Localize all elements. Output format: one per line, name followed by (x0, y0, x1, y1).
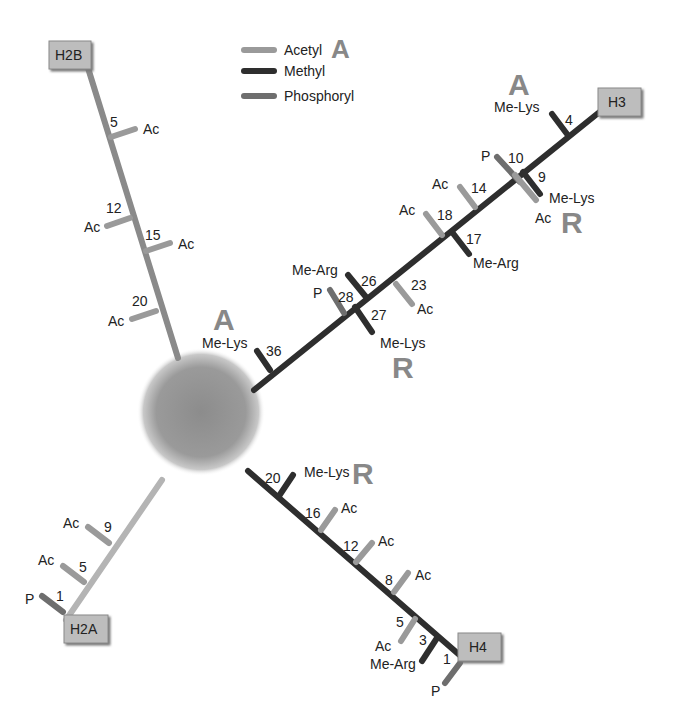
h2a-label: H2A (70, 621, 98, 637)
h3-site-10-modification: P (481, 148, 490, 164)
h2b-site-12-modification: Ac (84, 219, 100, 235)
h4-site-5-number: 5 (396, 614, 404, 630)
h3-site-23-modification: Ac (417, 301, 433, 317)
h4-site-12-modification: Ac (378, 533, 394, 549)
h3-site-10-number: 10 (508, 150, 524, 166)
h4-site-3-number: 3 (419, 632, 427, 648)
h2a-site-5-modification: Ac (38, 552, 54, 568)
legend-acetyl-label: Acetyl (284, 42, 322, 58)
h3-site-9-methyl-label: Me-Lys (549, 190, 594, 206)
legend-phosphoryl-label: Phosphoryl (284, 88, 354, 104)
h2a-tail: Ac 9 Ac 5 P 1 H2A (25, 480, 162, 643)
h2b-site-15-modification: Ac (178, 236, 194, 252)
h3-site-23-number: 23 (411, 277, 427, 293)
h4-tail: 20 Me-Lys R 16 Ac 12 Ac 8 Ac 5 Ac 3 Me-A… (248, 457, 501, 699)
h3-site-14-number: 14 (471, 180, 487, 196)
h3-site-9-acetyl-label: Ac (535, 210, 551, 226)
h3-label: H3 (608, 94, 626, 110)
h3-site-9-number: 9 (538, 169, 546, 185)
h2b-site-5-modification: Ac (143, 121, 159, 137)
h3-site-4-activation-mark: A (508, 68, 530, 101)
h4-site-16-number: 16 (305, 505, 321, 521)
h3-site-23-acetyl-mark (396, 284, 412, 304)
legend: Acetyl A Methyl Phosphoryl (244, 34, 354, 104)
h4-site-20-methyl-mark (279, 475, 293, 496)
h3-site-36-number: 36 (266, 343, 282, 359)
h4-site-16-modification: Ac (341, 500, 357, 516)
h3-site-28-number: 28 (338, 289, 354, 305)
h3-site-36-activation-mark: A (213, 303, 235, 336)
legend-methyl-label: Methyl (284, 63, 325, 79)
h2b-backbone (88, 68, 178, 358)
legend-activation-mark: A (331, 34, 350, 64)
h2b-site-15-number: 15 (145, 227, 161, 243)
h4-site-12-number: 12 (343, 538, 359, 554)
h2b-site-20-modification: Ac (108, 313, 124, 329)
h2a-backbone (66, 480, 162, 620)
h4-site-8-modification: Ac (415, 567, 431, 583)
h3-site-27-repression-mark: R (392, 351, 414, 384)
h2a-site-9-number: 9 (104, 519, 112, 535)
h2a-site-1-modification: P (25, 591, 34, 607)
h2a-site-9-modification: Ac (63, 515, 79, 531)
h4-label: H4 (469, 639, 487, 655)
h2b-site-20-number: 20 (132, 293, 148, 309)
histone-modification-diagram: Acetyl A Methyl Phosphoryl 5 Ac 12 Ac 15… (0, 0, 677, 719)
h3-site-28-modification: P (313, 285, 322, 301)
h4-site-8-number: 8 (385, 572, 393, 588)
h3-site-27-methyl-mark (355, 307, 372, 332)
h3-site-36-modification: Me-Lys (202, 335, 247, 351)
h3-backbone (254, 110, 602, 390)
h4-site-3-modification: Me-Arg (370, 656, 416, 672)
nucleosome-core (137, 348, 265, 476)
h3-site-14-modification: Ac (432, 176, 448, 192)
h4-site-5-modification: Ac (375, 638, 391, 654)
h2b-site-20-acetyl-mark (132, 311, 156, 319)
h3-site-27-modification: Me-Lys (380, 335, 425, 351)
h4-site-20-modification: Me-Lys (304, 464, 349, 480)
h3-site-4-number: 4 (565, 112, 573, 128)
h2b-site-15-acetyl-mark (146, 243, 170, 251)
h2b-site-5-number: 5 (110, 114, 118, 130)
h2b-tail: 5 Ac 12 Ac 15 Ac 20 Ac H2B (49, 41, 194, 358)
h3-site-18-number: 18 (437, 207, 453, 223)
h3-site-26-number: 26 (361, 273, 377, 289)
h4-site-20-repression-mark: R (352, 457, 374, 490)
h2b-site-12-number: 12 (106, 200, 122, 216)
h2b-site-5-acetyl-mark (111, 129, 135, 137)
h4-site-8-acetyl-mark (394, 573, 408, 592)
h3-tail: 4 Me-Lys A P 10 9 Me-Lys Ac R Ac 14 Ac 1… (202, 68, 641, 390)
h3-site-18-modification: Ac (399, 202, 415, 218)
h3-site-27-number: 27 (371, 307, 387, 323)
h2a-site-5-number: 5 (79, 559, 87, 575)
h4-site-16-acetyl-mark (321, 510, 335, 530)
h3-site-17-modification: Me-Arg (473, 255, 519, 271)
h2b-label: H2B (55, 47, 82, 63)
h2a-site-1-number: 1 (56, 588, 64, 604)
h3-site-4-modification: Me-Lys (494, 99, 539, 115)
h4-site-20-number: 20 (265, 470, 281, 486)
h4-site-1-number: 1 (443, 651, 451, 667)
h4-site-1-modification: P (431, 683, 440, 699)
h2b-site-12-acetyl-mark (107, 218, 130, 226)
h3-site-9-repression-mark: R (561, 206, 583, 239)
h3-site-17-number: 17 (466, 231, 482, 247)
h3-site-26-modification: Me-Arg (292, 262, 338, 278)
